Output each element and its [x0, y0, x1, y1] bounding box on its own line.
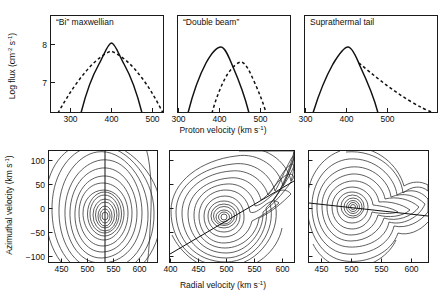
xtick-label-500: 500	[380, 114, 394, 124]
panel-title-double-beam: “Double beam”	[183, 17, 239, 27]
xtick-label-500: 500	[145, 114, 159, 124]
xaxis-label-main: Proton velocity (km s	[179, 125, 258, 135]
xtick-label-450: 450	[191, 264, 205, 274]
xtick-label-550: 550	[106, 264, 120, 274]
xtick-label-500: 500	[219, 264, 233, 274]
xtick-label-300: 300	[298, 114, 312, 124]
ytick-label-minus50: −50	[31, 228, 46, 238]
panel-title-suprathermal-tail: Suprathermal tail	[310, 17, 374, 27]
xaxis-label-end: )	[264, 125, 267, 135]
xtick-label-300: 300	[171, 114, 185, 124]
xtick-label-500: 500	[344, 264, 358, 274]
panel-suprathermal-tail: Suprathermal tail 300 400 500	[298, 16, 437, 125]
panel-frame	[309, 151, 429, 263]
svg-text:Radial velocity (km s-1): Radial velocity (km s-1)	[180, 280, 266, 290]
panel-bi-maxwellian: “Bi” maxwellian 8 7 300 400 500	[42, 16, 163, 125]
ytick-label-0: 0	[40, 204, 45, 214]
svg-text:Log flux (cm-2 s-1): Log flux (cm-2 s-1)	[7, 33, 17, 100]
panel-distribution-double-beam: 400 450 500 550 600	[163, 148, 294, 274]
svg-text:Azimuthal velocity (km s-1): Azimuthal velocity (km s-1)	[4, 155, 14, 255]
contour-set	[307, 146, 428, 268]
bottom-xaxis-label-end: )	[263, 280, 266, 290]
xtick-label-400: 400	[163, 264, 177, 274]
xtick-label-550: 550	[247, 264, 261, 274]
svg-text:Proton velocity (km s-1): Proton velocity (km s-1)	[179, 125, 266, 135]
xtick-label-600: 600	[132, 264, 146, 274]
xtick-label-400: 400	[104, 114, 118, 124]
panel-title-bi-maxwellian: “Bi” maxwellian	[56, 17, 114, 27]
bottom-xaxis-label-main: Radial velocity (km s	[180, 280, 258, 290]
contour-set	[45, 141, 161, 282]
bottom-yaxis-label-main: Azimuthal velocity (km s	[4, 164, 14, 255]
xtick-label-400: 400	[339, 114, 353, 124]
ytick-label-8: 8	[42, 40, 47, 50]
bottom-yaxis-label-end: )	[4, 155, 14, 158]
curve-main-beam	[188, 47, 249, 113]
top-row-yaxis-title: Log flux (cm-2 s-1)	[7, 33, 17, 100]
bottom-row-yaxis-title: Azimuthal velocity (km s-1)	[4, 155, 14, 255]
contour-set	[171, 148, 294, 271]
ytick-label-100: 100	[31, 156, 45, 166]
yaxis-label-end: )	[7, 33, 17, 36]
figure-root: Log flux (cm-2 s-1) Proton velocity (km …	[0, 0, 447, 293]
curve-halo-maxwellian	[58, 51, 163, 113]
yaxis-label-main: Log flux (cm	[7, 53, 17, 99]
figure-canvas: Log flux (cm-2 s-1) Proton velocity (km …	[0, 0, 447, 293]
ytick-label-minus100: −100	[26, 252, 45, 262]
curve-thermal-core	[313, 47, 378, 113]
xtick-label-450: 450	[54, 264, 68, 274]
panel-double-beam: “Double beam” 300 400 500	[171, 16, 290, 125]
xtick-label-500: 500	[80, 264, 94, 274]
curve-core-maxwellian	[81, 43, 142, 113]
xtick-label-550: 550	[374, 264, 388, 274]
panel-distribution-suprathermal-tail: 450 500 550 600	[307, 146, 429, 274]
xtick-label-450: 450	[314, 264, 328, 274]
curve-secondary-beam	[212, 62, 266, 113]
xtick-label-300: 300	[63, 114, 77, 124]
panel-frame	[178, 16, 291, 113]
ytick-label-50: 50	[36, 180, 46, 190]
xtick-label-600: 600	[275, 264, 289, 274]
yaxis-label-mid: s	[7, 41, 17, 48]
xtick-label-500: 500	[253, 114, 267, 124]
xtick-label-400: 400	[212, 114, 226, 124]
top-row-xaxis-title: Proton velocity (km s-1)	[179, 125, 266, 135]
ytick-label-7: 7	[42, 78, 47, 88]
panel-frame	[305, 16, 438, 113]
bottom-row-xaxis-title: Radial velocity (km s-1)	[180, 280, 266, 290]
xtick-label-600: 600	[404, 264, 418, 274]
panel-distribution-bi-maxwellian: 100 50 0 −50 −100 450 500 550 600	[26, 141, 161, 282]
